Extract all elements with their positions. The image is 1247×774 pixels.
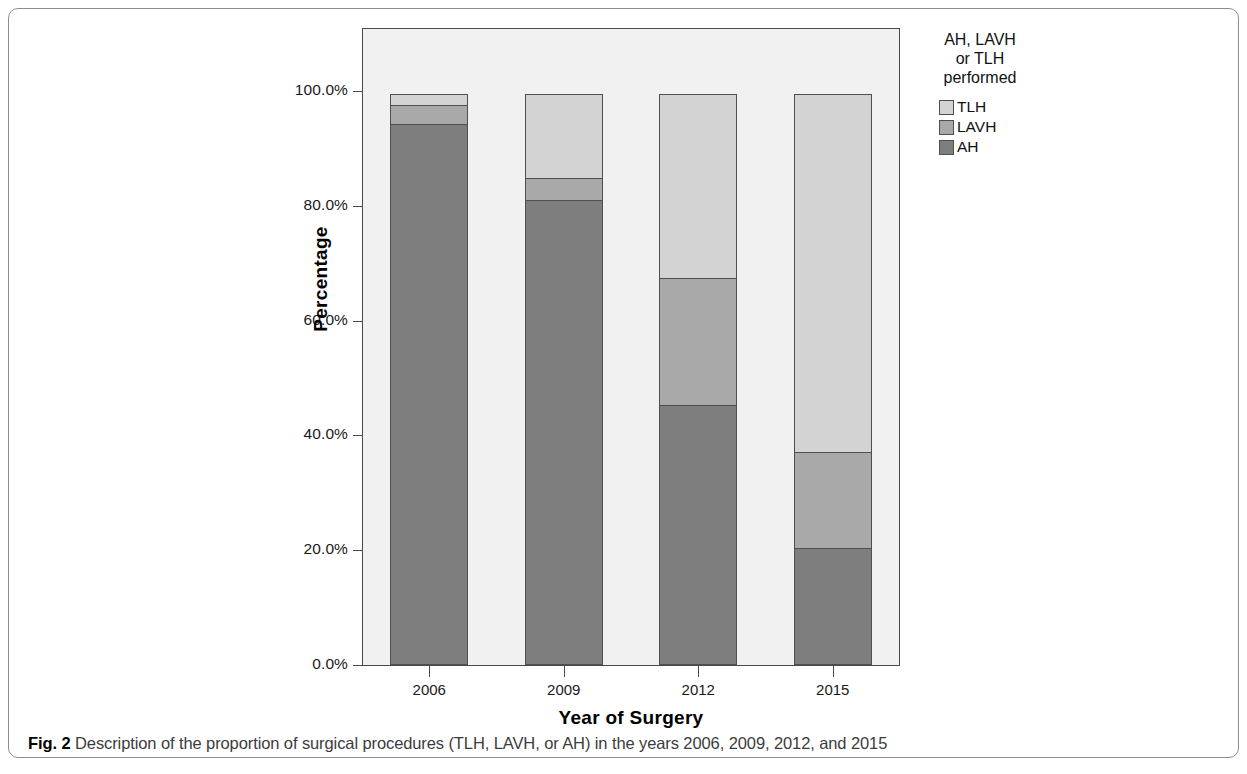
y-axis-tick-mark	[353, 665, 362, 666]
bar-segment-tlh-2015	[794, 94, 872, 454]
bar-group-2006	[390, 95, 468, 665]
legend-label-lavh: LAVH	[957, 118, 996, 136]
bar-group-2015	[794, 95, 872, 665]
y-axis-tick-mark	[353, 91, 362, 92]
legend-swatch-ah-icon	[939, 140, 954, 155]
bar-segment-ah-2006	[390, 124, 468, 665]
y-axis-title: Percentage	[310, 226, 332, 331]
x-axis-tick-label-2015: 2015	[773, 681, 893, 698]
bar-group-2012	[659, 95, 737, 665]
bar-group-2009	[525, 95, 603, 665]
bar-segment-ah-2015	[794, 548, 872, 665]
y-axis-tick-mark	[353, 550, 362, 551]
y-axis-tick-label: 40.0%	[304, 425, 348, 443]
bar-segment-lavh-2009	[525, 178, 603, 201]
legend-item-lavh: LAVH	[939, 117, 1085, 137]
x-axis-tick-mark	[833, 666, 834, 677]
legend-swatch-lavh-icon	[939, 120, 954, 135]
legend-title-line-1: AH, LAVH	[905, 30, 1055, 49]
y-axis-tick-label: 0.0%	[312, 655, 348, 673]
legend-item-tlh: TLH	[939, 97, 1085, 117]
legend-label-tlh: TLH	[957, 98, 986, 116]
legend-label-ah: AH	[957, 138, 979, 156]
bar-segment-lavh-2006	[390, 105, 468, 125]
y-axis-tick-mark	[353, 435, 362, 436]
legend-title: AH, LAVH or TLH performed	[905, 30, 1055, 87]
y-axis-tick-mark	[353, 206, 362, 207]
y-axis-tick-label: 80.0%	[304, 196, 348, 214]
x-axis-tick-label-2012: 2012	[638, 681, 758, 698]
legend-title-line-2: or TLH	[905, 49, 1055, 68]
legend-swatch-tlh-icon	[939, 100, 954, 115]
bar-segment-ah-2009	[525, 200, 603, 665]
y-axis-tick-mark	[353, 321, 362, 322]
y-axis-tick-label: 20.0%	[304, 540, 348, 558]
bar-segment-tlh-2012	[659, 94, 737, 280]
bar-segment-lavh-2012	[659, 278, 737, 406]
legend: AH, LAVH or TLH performed TLHLAVHAH	[905, 30, 1085, 157]
bar-segment-lavh-2015	[794, 452, 872, 550]
figure-caption: Fig. 2 Description of the proportion of …	[28, 734, 887, 753]
legend-item-ah: AH	[939, 137, 1085, 157]
x-axis-tick-mark	[564, 666, 565, 677]
bars-container	[362, 91, 900, 665]
x-axis-title: Year of Surgery	[362, 707, 900, 729]
x-axis-tick-label-2009: 2009	[504, 681, 624, 698]
legend-items: TLHLAVHAH	[939, 97, 1085, 157]
legend-title-line-3: performed	[905, 68, 1055, 87]
bar-segment-ah-2012	[659, 405, 737, 665]
y-axis-tick-label: 100.0%	[295, 81, 348, 99]
x-axis-tick-mark	[429, 666, 430, 677]
bar-segment-tlh-2009	[525, 94, 603, 180]
figure-label: Fig. 2	[28, 734, 71, 752]
x-axis-tick-label-2006: 2006	[369, 681, 489, 698]
figure-caption-text: Description of the proportion of surgica…	[71, 734, 888, 752]
chart-area: 0.0%20.0%40.0%60.0%80.0%100.0% Percentag…	[0, 0, 1247, 722]
x-axis-tick-mark	[698, 666, 699, 677]
